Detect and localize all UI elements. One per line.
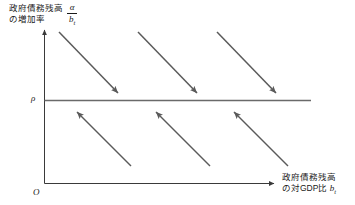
x-axis-title-line2-prefix: の対GDP比 — [282, 183, 330, 193]
above-line-arrow-group — [59, 32, 276, 93]
x-axis-title-line1: 政府債務残高 — [282, 172, 336, 183]
x-axis-variable-subscript: t — [334, 188, 336, 195]
x-axis-title: 政府債務残高 の対GDP比 bt — [282, 172, 336, 194]
y-axis-title: 政府債務残高 の増加率 α bt — [9, 3, 77, 28]
above-line-arrow — [217, 32, 276, 93]
y-axis-title-text: 政府債務残高 の増加率 — [9, 3, 63, 24]
y-axis-expression-fraction: α bt — [67, 2, 77, 28]
x-axis-title-variable: bt — [330, 183, 336, 193]
below-line-arrow — [234, 112, 288, 166]
above-line-arrow — [138, 32, 197, 93]
fraction-denominator: bt — [67, 14, 77, 28]
fraction-numerator: α — [67, 2, 77, 12]
above-line-arrow — [59, 32, 118, 93]
rho-tick-label: ρ — [31, 93, 35, 104]
fraction-denominator-subscript: t — [74, 19, 76, 26]
y-axis-title-line2: の増加率 — [9, 14, 63, 25]
below-line-arrow-group — [77, 112, 288, 166]
y-axis-title-line1: 政府債務残高 — [9, 3, 63, 14]
below-line-arrow — [77, 112, 131, 166]
origin-label: O — [33, 187, 40, 198]
phase-diagram-figure: 政府債務残高 の増加率 α bt ρ O 政府債務残高 の対GDP比 bt — [0, 0, 355, 205]
below-line-arrow — [156, 112, 210, 166]
x-axis-title-line2: の対GDP比 bt — [282, 183, 336, 194]
